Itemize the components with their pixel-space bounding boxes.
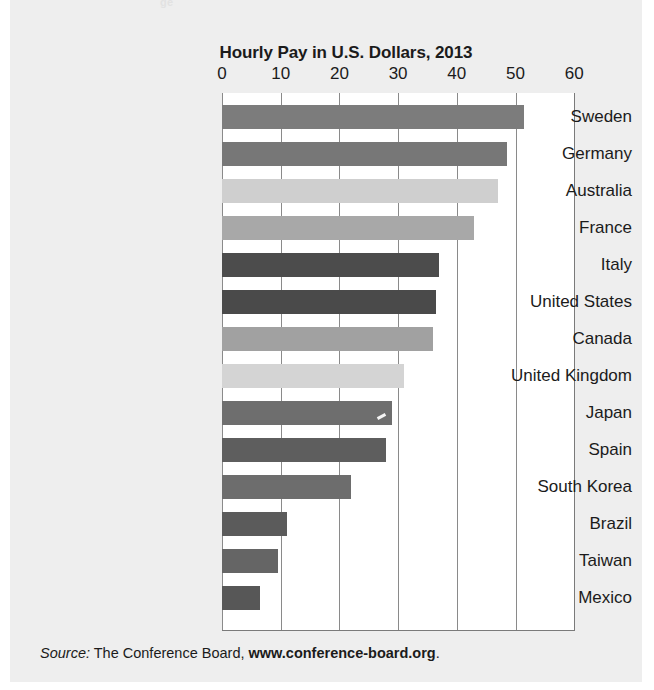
clipped-top-text: ge [160,0,173,8]
source-text: The Conference Board, [90,645,249,661]
figure-panel: ge Hourly Pay in U.S. Dollars, 2013 0102… [10,0,642,682]
category-label-canada: Canada [430,327,642,351]
bar-canada [222,327,433,351]
x-tick-label-20: 20 [319,64,359,84]
source-url: www.conference-board.org [249,645,436,661]
bar-row: Japan [10,401,642,425]
print-artifact [377,413,386,420]
bar-united-states [222,290,436,314]
bar-sweden [222,105,524,129]
x-tick-label-30: 30 [378,64,418,84]
category-label-mexico: Mexico [430,586,642,610]
bar-row: Spain [10,438,642,462]
x-tick-label-60: 60 [554,64,594,84]
bar-italy [222,253,439,277]
bar-row: South Korea [10,475,642,499]
source-note: Source: The Conference Board, www.confer… [40,645,440,661]
bar-france [222,216,474,240]
category-label-brazil: Brazil [430,512,642,536]
category-label-taiwan: Taiwan [430,549,642,573]
bar-spain [222,438,386,462]
bar-row: France [10,216,642,240]
category-label-united-states: United States [430,290,642,314]
bar-row: Brazil [10,512,642,536]
bar-germany [222,142,507,166]
bar-taiwan [222,549,278,573]
x-tick-label-0: 0 [202,64,242,84]
bar-south-korea [222,475,351,499]
bar-row: Taiwan [10,549,642,573]
x-tick-label-40: 40 [437,64,477,84]
x-axis-tick-labels: 0102030405060 [10,64,642,88]
category-label-japan: Japan [430,401,642,425]
bar-row: Australia [10,179,642,203]
bar-row: United States [10,290,642,314]
category-label-united-kingdom: United Kingdom [430,364,642,388]
bar-australia [222,179,498,203]
chart-title: Hourly Pay in U.S. Dollars, 2013 [10,43,642,63]
source-label: Source: [40,645,90,661]
bar-row: Italy [10,253,642,277]
bar-row: United Kingdom [10,364,642,388]
bar-japan [222,401,392,425]
x-tick-label-10: 10 [261,64,301,84]
bar-row: Mexico [10,586,642,610]
bar-row: Canada [10,327,642,351]
bar-mexico [222,586,260,610]
category-label-spain: Spain [430,438,642,462]
bar-row: Sweden [10,105,642,129]
bar-united-kingdom [222,364,404,388]
bar-row: Germany [10,142,642,166]
x-tick-label-50: 50 [496,64,536,84]
bar-brazil [222,512,287,536]
category-label-south-korea: South Korea [430,475,642,499]
category-label-italy: Italy [430,253,642,277]
source-period: . [436,645,440,661]
